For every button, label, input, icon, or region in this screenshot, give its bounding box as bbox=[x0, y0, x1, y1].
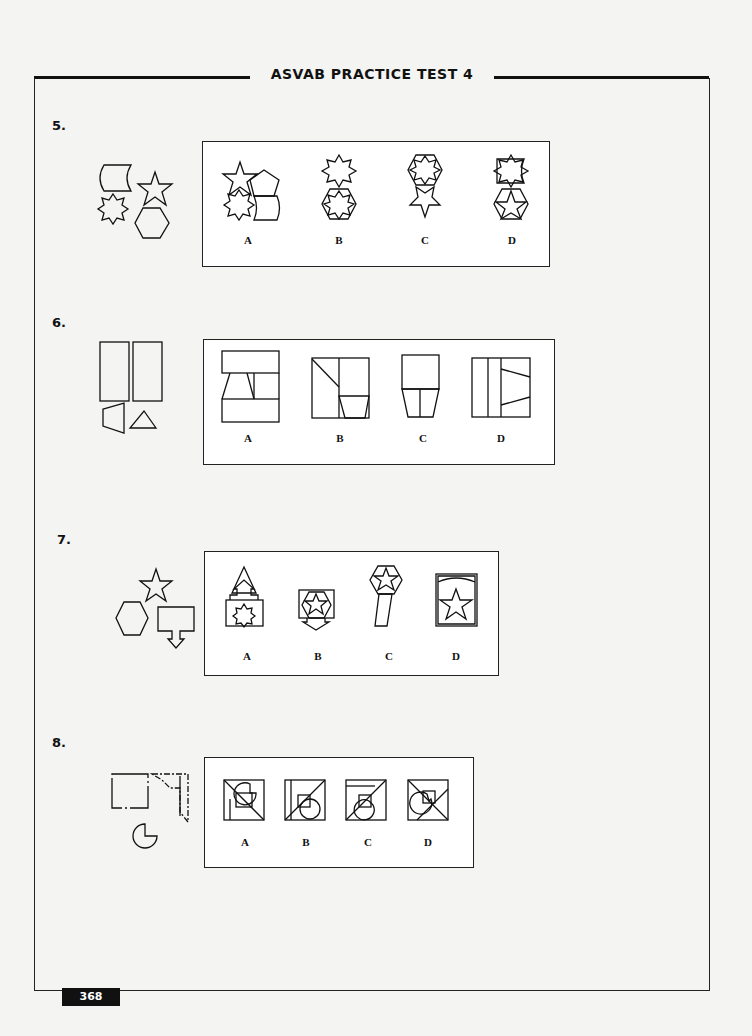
q5-option-a-label[interactable]: A bbox=[244, 234, 252, 246]
q5-option-c-label[interactable]: C bbox=[421, 234, 429, 246]
curved-square-shape bbox=[100, 165, 131, 191]
trapezoid-shape bbox=[103, 403, 124, 433]
q5-option-d-figure[interactable] bbox=[490, 153, 534, 233]
q8-option-d-label[interactable]: D bbox=[424, 836, 432, 848]
q7-option-a-label[interactable]: A bbox=[243, 650, 251, 662]
q6-option-b-label[interactable]: B bbox=[336, 432, 343, 444]
rectangle-shape bbox=[133, 342, 162, 401]
q8-option-c-figure[interactable] bbox=[345, 779, 389, 823]
q5-option-d-label[interactable]: D bbox=[508, 234, 516, 246]
triangle-shape bbox=[130, 411, 156, 428]
q5-option-b-figure[interactable] bbox=[318, 153, 362, 233]
question-number-5: 5. bbox=[52, 118, 66, 133]
eight-point-star-shape bbox=[98, 194, 128, 224]
q8-option-a-label[interactable]: A bbox=[241, 836, 249, 848]
q7-option-a-figure[interactable] bbox=[224, 564, 264, 628]
q5-option-c-figure[interactable] bbox=[404, 153, 448, 233]
q6-option-b-figure[interactable] bbox=[310, 357, 370, 421]
rectangle-shape bbox=[100, 342, 129, 401]
q5-given-shapes bbox=[96, 160, 176, 245]
q8-option-d-figure[interactable] bbox=[407, 779, 451, 823]
q8-option-a-figure[interactable] bbox=[223, 779, 267, 823]
q8-option-b-figure[interactable] bbox=[284, 779, 328, 823]
q7-option-b-label[interactable]: B bbox=[314, 650, 321, 662]
question-number-6: 6. bbox=[52, 315, 66, 330]
q7-option-c-label[interactable]: C bbox=[385, 650, 393, 662]
q7-option-d-label[interactable]: D bbox=[452, 650, 460, 662]
q8-given-shapes bbox=[110, 772, 194, 872]
q5-option-b-label[interactable]: B bbox=[335, 234, 342, 246]
q6-option-c-figure[interactable] bbox=[399, 354, 443, 420]
star-shape bbox=[138, 172, 172, 205]
q6-option-d-label[interactable]: D bbox=[497, 432, 505, 444]
hexagon-shape bbox=[135, 208, 169, 238]
q7-option-c-figure[interactable] bbox=[367, 564, 407, 628]
q6-option-a-label[interactable]: A bbox=[244, 432, 252, 444]
question-number-8: 8. bbox=[52, 735, 66, 750]
q7-given-shapes bbox=[114, 566, 196, 656]
q8-option-b-label[interactable]: B bbox=[302, 836, 309, 848]
question-number-7: 7. bbox=[57, 532, 71, 547]
q8-option-c-label[interactable]: C bbox=[364, 836, 372, 848]
star-shape bbox=[140, 569, 172, 601]
q5-option-a-figure[interactable] bbox=[222, 160, 282, 230]
q7-option-b-figure[interactable] bbox=[297, 588, 337, 636]
q6-option-c-label[interactable]: C bbox=[419, 432, 427, 444]
hexagon-shape bbox=[116, 602, 148, 635]
q6-option-a-figure[interactable] bbox=[220, 350, 280, 426]
q6-given-shapes bbox=[98, 340, 170, 440]
corner-piece-shape bbox=[152, 774, 188, 822]
q7-option-d-figure[interactable] bbox=[434, 572, 480, 630]
page-number: 368 bbox=[62, 988, 120, 1006]
circle-with-notch-shape bbox=[133, 824, 157, 848]
q6-option-d-figure[interactable] bbox=[470, 357, 534, 421]
square-shape bbox=[112, 774, 148, 808]
square-with-arrow-shape bbox=[158, 607, 194, 648]
